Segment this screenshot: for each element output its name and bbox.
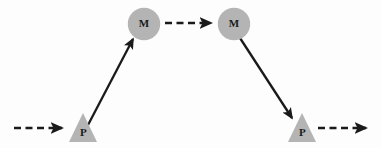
node-m-left[interactable]: M [128, 8, 160, 40]
diagram-canvas: P M M P [0, 0, 382, 148]
node-p-right-label: P [299, 126, 306, 138]
p-left-to-m-left-line [88, 39, 133, 125]
node-m-right-label: M [229, 17, 240, 29]
node-p-left-label: P [80, 126, 87, 138]
m-right-to-p-right-line [240, 38, 292, 118]
diagram-svg: P M M P [0, 0, 382, 148]
edge-p-left-to-m-left-solid-arrow [88, 39, 133, 125]
node-m-left-label: M [139, 17, 150, 29]
edge-m-right-to-p-right-solid-arrow [240, 38, 292, 118]
node-m-right[interactable]: M [218, 8, 250, 40]
